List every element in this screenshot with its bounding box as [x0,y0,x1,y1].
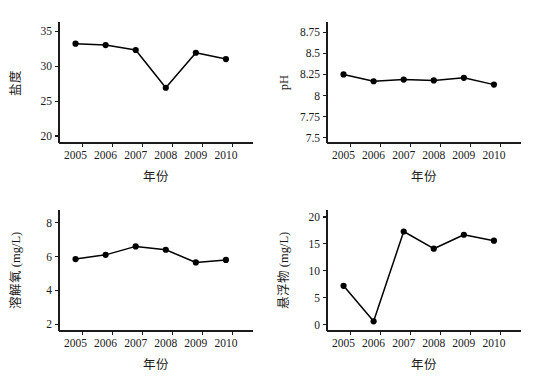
x-tick-label: 2007 [124,149,147,161]
x-tick-label: 2006 [362,149,385,161]
y-axis-title: 溶解氧 (mg/L) [8,232,23,310]
x-tick-labels: 200520062007200820092010 [332,149,506,161]
y-axis-title: 盐度 [8,70,23,96]
data-point-marker [103,252,109,258]
y-tick-label: 25 [41,95,53,107]
data-point-marker [491,238,497,244]
x-axis-title: 年份 [411,170,437,184]
x-tick-label: 2006 [94,149,117,161]
y-tick-label: 30 [41,60,53,72]
series-line [76,44,226,88]
y-tick-label: 35 [41,25,53,37]
data-point-marker [223,56,229,62]
ph-plot: 7.57.7588.258.58.75 20052006200720082009… [268,0,535,188]
chart-panel-dissolved-oxygen: 2468 200520062007200820092010 年份 溶解氧 (mg… [0,188,267,376]
x-tick-label: 2007 [392,337,415,349]
data-point-marker [461,75,467,81]
x-tick-labels: 200520062007200820092010 [64,149,238,161]
dissolved-oxygen-plot: 2468 200520062007200820092010 年份 溶解氧 (mg… [0,188,267,376]
data-point-marker [371,318,377,324]
data-point-marker [103,42,109,48]
x-tick-labels: 200520062007200820092010 [332,337,506,349]
y-ticks [323,32,327,138]
y-tick-label: 2 [46,318,52,330]
x-tick-label: 2010 [214,337,237,349]
y-tick-label: 10 [309,265,321,277]
data-point-marker [193,259,199,265]
data-point-marker [401,228,407,234]
y-axis-title: 悬浮物 (mg/L) [277,232,291,310]
data-point-marker [163,85,169,91]
data-point-marker [72,41,78,47]
series-markers [72,41,229,91]
y-ticks [323,217,327,325]
y-tick-label: 6 [46,251,52,263]
y-tick-label: 8 [314,90,320,102]
x-tick-label: 2005 [332,337,355,349]
suspended-solids-axes [323,210,521,335]
x-tick-label: 2008 [422,149,445,161]
series-line [344,74,494,84]
y-tick-labels: 7.57.7588.258.58.75 [300,26,320,144]
x-tick-label: 2010 [482,149,505,161]
y-axis-title: pH [277,75,291,90]
y-tick-label: 7.75 [300,111,320,123]
y-tick-label: 8.25 [300,68,320,80]
x-axis-title: 年份 [143,358,169,372]
x-tick-label: 2005 [64,337,87,349]
data-point-marker [133,243,139,249]
x-tick-labels: 200520062007200820092010 [64,337,238,349]
data-point-marker [371,78,377,84]
y-tick-label: 20 [309,211,321,223]
data-point-marker [431,77,437,83]
y-ticks [55,31,59,136]
x-tick-label: 2009 [184,337,207,349]
data-series [340,228,497,324]
data-series [72,41,229,91]
y-tick-label: 20 [41,130,53,142]
x-tick-label: 2010 [482,337,505,349]
figure-canvas: 20253035 200520062007200820092010 年份 盐度 … [0,0,535,377]
x-tick-label: 2007 [392,149,415,161]
series-line [344,232,494,322]
x-tick-label: 2005 [64,149,87,161]
y-tick-labels: 20253035 [41,25,53,142]
x-ticks [82,143,232,147]
y-tick-label: 8.5 [306,47,321,59]
x-tick-label: 2010 [214,149,237,161]
data-point-marker [491,82,497,88]
chart-panel-ph: 7.57.7588.258.58.75 20052006200720082009… [268,0,535,188]
y-tick-label: 5 [314,292,320,304]
x-tick-label: 2006 [362,337,385,349]
data-series [72,243,229,265]
data-series [340,71,497,87]
data-point-marker [193,50,199,56]
y-ticks [55,223,59,325]
y-tick-label: 4 [46,284,52,296]
y-tick-label: 0 [314,319,320,331]
x-tick-label: 2009 [184,149,207,161]
series-line [76,246,226,262]
salinity-axes [55,22,253,147]
data-point-marker [223,257,229,263]
data-point-marker [340,71,346,77]
x-tick-label: 2008 [154,149,177,161]
y-tick-label: 8 [46,217,52,229]
data-point-marker [340,283,346,289]
x-axis-title: 年份 [411,358,437,372]
x-tick-label: 2005 [332,149,355,161]
x-tick-label: 2009 [452,337,475,349]
x-ticks [350,143,500,147]
data-point-marker [431,246,437,252]
y-tick-labels: 05101520 [309,211,321,331]
data-point-marker [401,76,407,82]
y-tick-labels: 2468 [46,217,52,331]
x-tick-label: 2008 [154,337,177,349]
x-tick-label: 2007 [124,337,147,349]
x-ticks [82,331,232,335]
x-tick-label: 2008 [422,337,445,349]
data-point-marker [72,256,78,262]
dissolved-oxygen-axes [55,210,253,335]
x-axis-title: 年份 [143,170,169,184]
salinity-plot: 20253035 200520062007200820092010 年份 盐度 [0,0,267,188]
